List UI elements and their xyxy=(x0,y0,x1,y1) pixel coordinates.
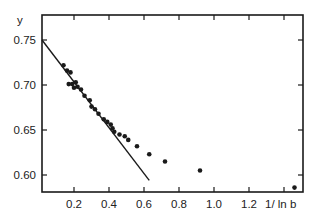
data-points xyxy=(61,63,297,190)
y-tick-label: 0.65 xyxy=(14,124,36,136)
scatter-chart: 0.20.40.60.81.01.20.600.650.700.75 y 1/ … xyxy=(0,0,315,219)
data-point xyxy=(96,112,101,117)
x-tick-label: 0.2 xyxy=(66,198,82,210)
data-point xyxy=(82,94,87,99)
axis-ticks xyxy=(42,15,303,192)
data-point xyxy=(93,107,98,112)
data-point xyxy=(122,134,127,139)
x-tick-label: 1.2 xyxy=(241,198,257,210)
data-point xyxy=(112,130,117,135)
x-tick-label: 0.4 xyxy=(101,198,118,210)
tick-labels: 0.20.40.60.81.01.20.600.650.700.75 xyxy=(14,34,257,210)
data-point xyxy=(73,80,78,85)
y-tick-label: 0.60 xyxy=(14,169,36,181)
plot-frame xyxy=(42,15,303,192)
data-point xyxy=(147,152,152,157)
x-axis-label: 1/ ln b xyxy=(265,198,296,210)
y-tick-label: 0.75 xyxy=(14,34,36,46)
data-point xyxy=(163,159,168,164)
data-point xyxy=(135,144,140,149)
data-point xyxy=(61,63,66,68)
data-point xyxy=(126,138,131,143)
data-point xyxy=(292,185,297,190)
y-tick-label: 0.70 xyxy=(14,79,36,91)
x-tick-label: 0.8 xyxy=(171,198,187,210)
data-point xyxy=(198,168,203,173)
data-point xyxy=(79,87,84,92)
data-point xyxy=(117,132,122,137)
x-tick-label: 1.0 xyxy=(206,198,222,210)
data-point xyxy=(87,98,92,103)
x-tick-label: 0.6 xyxy=(136,198,152,210)
y-axis-label: y xyxy=(17,14,23,26)
data-point xyxy=(68,70,73,75)
